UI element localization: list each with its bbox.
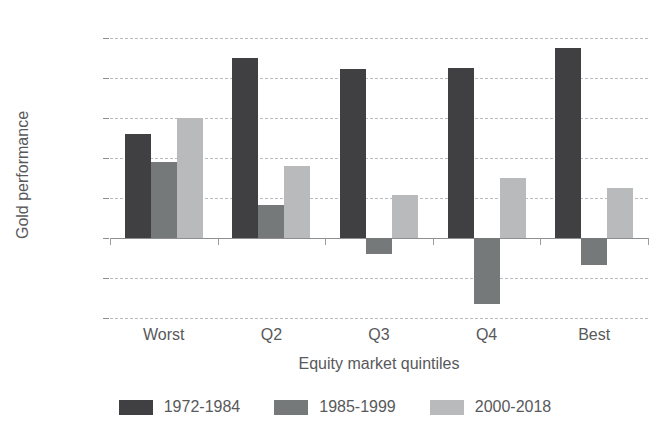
- x-tick-label: Best: [578, 326, 610, 344]
- legend-label: 1985-1999: [319, 398, 396, 416]
- x-tick-mark: [325, 238, 326, 245]
- bar: [125, 134, 151, 238]
- bar: [177, 118, 203, 238]
- legend-item[interactable]: 1972-1984: [119, 398, 241, 416]
- x-tick-label: Q4: [476, 326, 497, 344]
- y-tick-mark: [103, 78, 109, 79]
- legend-label: 2000-2018: [475, 398, 552, 416]
- bar: [366, 238, 392, 254]
- bar-group: [433, 38, 541, 318]
- legend-item[interactable]: 1985-1999: [274, 398, 396, 416]
- x-tick-mark: [648, 238, 649, 245]
- y-axis-title: Gold performance: [14, 60, 32, 290]
- bar: [392, 195, 418, 238]
- legend-swatch-icon: [274, 400, 308, 415]
- bar: [258, 205, 284, 238]
- bar: [555, 48, 581, 238]
- y-tick-mark: [103, 238, 109, 239]
- bar: [474, 238, 500, 304]
- y-tick-mark: [103, 38, 109, 39]
- legend-swatch-icon: [430, 400, 464, 415]
- y-tick-mark: [103, 118, 109, 119]
- x-tick-mark: [218, 238, 219, 245]
- gridline: [110, 318, 648, 319]
- chart-title: [0, 0, 670, 5]
- bar-group: [218, 38, 326, 318]
- bar-group: [325, 38, 433, 318]
- bar-chart: Gold performance 25%20%15%10%5%0%-5%-10%…: [0, 0, 670, 439]
- plot-area: 25%20%15%10%5%0%-5%-10%WorstQ2Q3Q4Best: [110, 38, 648, 318]
- bar: [340, 69, 366, 238]
- bar: [581, 238, 607, 265]
- bar: [284, 166, 310, 238]
- bar: [500, 178, 526, 238]
- x-tick-label: Q2: [261, 326, 282, 344]
- x-axis-title: Equity market quintiles: [110, 355, 648, 373]
- x-tick-label: Q3: [368, 326, 389, 344]
- legend-label: 1972-1984: [164, 398, 241, 416]
- y-tick-mark: [103, 158, 109, 159]
- y-tick-mark: [103, 278, 109, 279]
- bar: [151, 162, 177, 238]
- bar: [607, 188, 633, 238]
- bar: [448, 68, 474, 238]
- x-tick-mark: [540, 238, 541, 245]
- y-tick-mark: [103, 318, 109, 319]
- x-tick-label: Worst: [143, 326, 184, 344]
- x-tick-mark: [433, 238, 434, 245]
- legend-swatch-icon: [119, 400, 153, 415]
- chart-legend: 1972-19841985-19992000-2018: [0, 398, 670, 416]
- bar-group: [540, 38, 648, 318]
- x-tick-mark: [110, 238, 111, 245]
- legend-item[interactable]: 2000-2018: [430, 398, 552, 416]
- bar-group: [110, 38, 218, 318]
- y-tick-mark: [103, 198, 109, 199]
- bar: [232, 58, 258, 238]
